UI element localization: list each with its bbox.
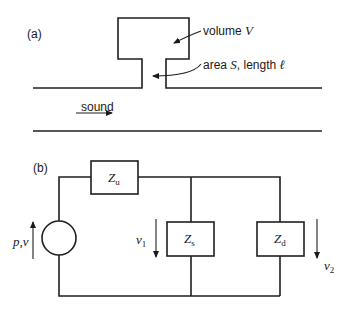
v1-label: v1 (136, 232, 146, 249)
panel-b: (b) p,v Zu Zs Zd v1 v2 (12, 161, 334, 296)
panel-b-label: (b) (33, 161, 48, 175)
panel-a-label: (a) (27, 27, 42, 41)
Zu-label: Zu (108, 170, 120, 187)
neck-label: area S, length ℓ (203, 57, 286, 72)
Zd-label: Zd (274, 231, 286, 248)
diagram-canvas: (a) volume V area S, length ℓ sound (b) … (0, 0, 347, 312)
volume-pointer-arrow (174, 31, 201, 43)
sound-label: sound (81, 100, 114, 114)
resonator-outline (33, 18, 322, 88)
Zs-label: Zs (184, 231, 195, 248)
circuit-wires (59, 177, 280, 296)
neck-pointer-arrow (153, 64, 201, 76)
velocity-source (42, 221, 76, 255)
panel-a: (a) volume V area S, length ℓ sound (27, 18, 322, 131)
v2-label: v2 (324, 258, 334, 275)
source-label: p,v (12, 234, 29, 249)
volume-label: volume V (203, 23, 255, 38)
